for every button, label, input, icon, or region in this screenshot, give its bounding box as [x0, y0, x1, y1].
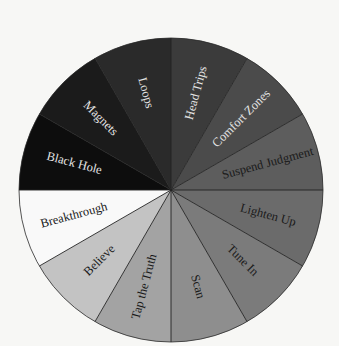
wheel-diagram: Head TripsComfort ZonesSuspend JudgmentL…: [0, 0, 339, 346]
